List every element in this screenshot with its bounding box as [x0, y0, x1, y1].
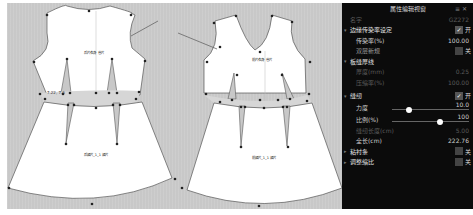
field-thickness: 厚度(mm) 0.25 — [342, 67, 473, 78]
back-bodice-label: 后片衣身 省片 — [79, 51, 109, 55]
slider-knob[interactable] — [406, 107, 412, 113]
field-total-length: 全长(cm) 222.76 — [342, 136, 473, 147]
ratio-value: 100 — [458, 113, 469, 120]
front-skirt-label: 前裙片_1_1 裙片 — [247, 156, 281, 160]
interlining-toggle[interactable]: 关 — [455, 147, 471, 156]
field-sewing-length: 缝纫长度(cm) 5.00 — [342, 125, 473, 136]
slider-knob[interactable] — [437, 119, 443, 125]
field-strength: 力度 10.0 — [342, 101, 473, 113]
pin-icon[interactable]: ≡ — [455, 5, 460, 12]
chevron-down-icon[interactable]: ▾ — [344, 58, 347, 64]
property-editor-panel: 属性编辑视窗 ≡ ✕ 名字 GZ272 ▾ 边缘传染率设定 ✓开 传染率(%) … — [342, 3, 473, 209]
field-double-layer: 双层新规 关 — [342, 46, 473, 57]
back-skirt-piece[interactable] — [8, 102, 172, 198]
total-length-value: 222.76 — [448, 137, 469, 144]
chevron-right-icon[interactable]: ▸ — [344, 148, 347, 154]
front-skirt-piece[interactable] — [187, 103, 342, 204]
chevron-down-icon[interactable]: ▾ — [344, 27, 347, 33]
section-adjust-scale[interactable]: ▸ 调整缩比 关 — [342, 157, 473, 168]
close-icon[interactable]: ✕ — [462, 5, 467, 12]
annotation-arrow-left — [131, 21, 158, 36]
chevron-right-icon[interactable]: ▸ — [344, 159, 347, 165]
ratio-slider[interactable] — [392, 121, 469, 122]
back-skirt-label: 后裙片_1_1 裙片 — [79, 153, 113, 157]
name-value[interactable]: GZ272 — [449, 16, 469, 23]
section-seam-line[interactable]: ▾ 板缝厚线 — [342, 56, 473, 67]
field-transmission-rate: 传染率(%) 100.00 — [342, 35, 473, 46]
checkbox-unchecked-icon[interactable] — [455, 147, 463, 155]
section-edge-transmission[interactable]: ▾ 边缘传染率设定 ✓开 — [342, 25, 473, 36]
checkbox-unchecked-icon[interactable] — [455, 47, 463, 55]
field-name: 名字 GZ272 — [342, 14, 473, 25]
checkbox-unchecked-icon[interactable] — [455, 158, 463, 166]
front-bodice-label: 前片衣身 省片 — [247, 58, 277, 62]
checkbox-checked-icon[interactable]: ✓ — [455, 92, 463, 100]
waist-measurement-label: 7.22, 7.6 — [47, 90, 65, 95]
section-interlining-strip[interactable]: ▸ 粘衬条 关 — [342, 146, 473, 157]
strength-slider[interactable] — [392, 109, 469, 110]
adjust-scale-toggle[interactable]: 关 — [455, 157, 471, 166]
field-compression: 压缩率(%) 100.00 — [342, 77, 473, 88]
transmission-rate-value[interactable]: 100.00 — [448, 37, 469, 44]
pattern-drawing[interactable] — [7, 3, 343, 209]
panel-title: 属性编辑视窗 — [390, 4, 426, 13]
sewing-toggle[interactable]: ✓开 — [455, 91, 471, 100]
double-layer-toggle[interactable]: 关 — [455, 46, 471, 55]
section-sewing[interactable]: ▾ 缝纫 ✓开 — [342, 91, 473, 102]
panel-header: 属性编辑视窗 ≡ ✕ — [342, 3, 473, 14]
thickness-value[interactable]: 0.25 — [456, 68, 469, 75]
strength-value: 10.0 — [456, 101, 469, 108]
checkbox-checked-icon[interactable]: ✓ — [455, 26, 463, 34]
sewing-length-value[interactable]: 5.00 — [456, 127, 469, 134]
field-ratio: 比例(%) 100 — [342, 113, 473, 125]
annotation-arrow-right — [178, 33, 217, 49]
chevron-down-icon[interactable]: ▾ — [344, 93, 347, 99]
edge-transmission-toggle[interactable]: ✓开 — [455, 25, 471, 34]
pattern-canvas[interactable]: 后片衣身 省片 后裙片_1_1 裙片 前片衣身 省片 前裙片_1_1 裙片 7.… — [7, 3, 343, 209]
compression-value[interactable]: 100.00 — [448, 79, 469, 86]
